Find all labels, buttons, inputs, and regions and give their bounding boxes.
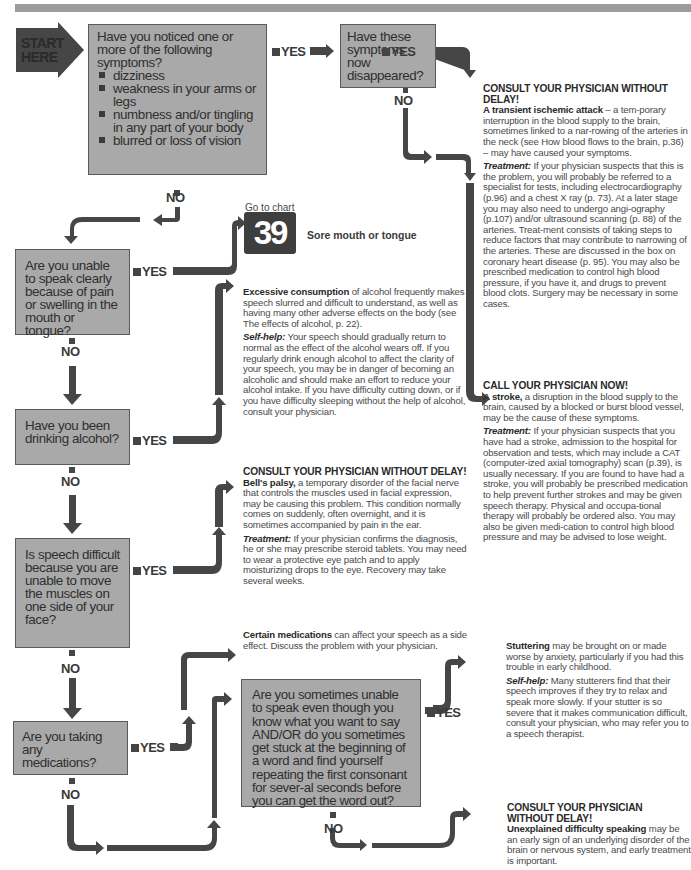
- start-here-label: START HERE: [21, 36, 64, 64]
- outcome-alcohol: Excessive consumption of alcohol frequen…: [243, 287, 468, 420]
- question-text: Is speech difficult because you are unab…: [25, 548, 120, 626]
- treatment-label: Treatment:: [483, 160, 531, 171]
- selfhelp-text: Your speech should gradually return to n…: [243, 331, 465, 416]
- outcome-title: A transient ischemic attack: [483, 104, 603, 115]
- symptom-item: numbness and/or tingling in any part of …: [97, 108, 258, 134]
- no-label[interactable]: NO: [61, 662, 80, 675]
- yes-marker-icon: [427, 709, 435, 717]
- start-line1: START: [21, 36, 64, 50]
- selfhelp-label: Self-help:: [243, 331, 285, 342]
- outcome-title: Excessive consumption: [243, 286, 349, 297]
- question-box-pain-swelling[interactable]: Are you unable to speak clearly because …: [15, 249, 130, 335]
- no-label[interactable]: NO: [166, 191, 185, 204]
- question-text: Are you taking any medications?: [22, 730, 119, 769]
- treatment-label: Treatment:: [243, 533, 291, 544]
- question-text: Have you been drinking alcohol?: [25, 419, 120, 445]
- outcome-heading: CONSULT YOUR PHYSICIAN WITHOUT DELAY!: [507, 803, 691, 824]
- treatment-text: If your physician suspects that this is …: [483, 160, 687, 309]
- yes-label[interactable]: YES: [382, 45, 416, 58]
- outcome-title: Certain medications: [243, 629, 332, 640]
- no-label[interactable]: NO: [61, 345, 80, 358]
- outcome-stuttering: Stuttering may be brought on or made wor…: [506, 641, 690, 742]
- outcome-stroke: CALL YOUR PHYSICIAN NOW! A stroke, a dis…: [483, 381, 688, 546]
- yes-label[interactable]: YES: [131, 741, 165, 754]
- no-label[interactable]: NO: [324, 822, 343, 835]
- yes-label[interactable]: YES: [133, 434, 167, 447]
- symptom-item: weakness in your arms or legs: [97, 82, 258, 108]
- outcome-bells-palsy: CONSULT YOUR PHYSICIAN WITHOUT DELAY! Be…: [243, 467, 468, 590]
- no-label[interactable]: NO: [61, 788, 80, 801]
- yes-marker-icon: [382, 48, 390, 56]
- yes-label[interactable]: YES: [427, 706, 461, 719]
- yes-marker-icon: [272, 48, 280, 56]
- selfhelp-label: Self-help:: [506, 675, 548, 686]
- treatment-text: If your physician suspects that you have…: [483, 425, 688, 542]
- yes-marker-icon: [133, 268, 141, 276]
- chart-title-link[interactable]: Sore mouth or tongue: [307, 229, 417, 241]
- treatment-label: Treatment:: [483, 425, 531, 436]
- question-box-medications[interactable]: Are you taking any medications?: [13, 721, 128, 775]
- question-text: Have you noticed one or more of the foll…: [97, 30, 258, 69]
- question-box-alcohol[interactable]: Have you been drinking alcohol?: [15, 409, 130, 465]
- start-line2: HERE: [21, 50, 64, 64]
- question-box-stuttering[interactable]: Are you sometimes unable to speak even t…: [241, 679, 421, 807]
- outcome-title: Stuttering: [506, 640, 550, 651]
- no-label[interactable]: NO: [394, 94, 413, 107]
- outcome-title: Unexplained difficulty speaking: [507, 823, 646, 834]
- yes-marker-icon: [133, 567, 141, 575]
- question-box-facial-muscles[interactable]: Is speech difficult because you are unab…: [15, 538, 130, 648]
- question-text: Are you sometimes unable to speak even t…: [252, 688, 410, 808]
- question-box-symptoms[interactable]: Have you noticed one or more of the foll…: [88, 24, 267, 175]
- question-text: Are you unable to speak clearly because …: [25, 259, 120, 337]
- yes-marker-icon: [131, 744, 139, 752]
- outcome-unexplained: CONSULT YOUR PHYSICIAN WITHOUT DELAY! Un…: [507, 803, 691, 870]
- outcome-title: A stroke,: [483, 391, 522, 402]
- outcome-tia: CONSULT YOUR PHYSICIAN WITHOUT DELAY! A …: [483, 84, 688, 312]
- outcome-medications: Certain medications can affect your spee…: [243, 630, 468, 654]
- symptom-list: dizziness weakness in your arms or legs …: [97, 69, 258, 147]
- outcome-heading: CONSULT YOUR PHYSICIAN WITHOUT DELAY!: [483, 84, 688, 105]
- yes-label[interactable]: YES: [133, 564, 167, 577]
- symptom-item: blurred or loss of vision: [97, 134, 258, 147]
- outcome-title: Bell's palsy,: [243, 477, 295, 488]
- chart-number-badge[interactable]: 39: [244, 212, 296, 254]
- yes-label[interactable]: YES: [133, 265, 167, 278]
- no-label[interactable]: NO: [61, 475, 80, 488]
- yes-label[interactable]: YES: [272, 45, 306, 58]
- yes-marker-icon: [133, 437, 141, 445]
